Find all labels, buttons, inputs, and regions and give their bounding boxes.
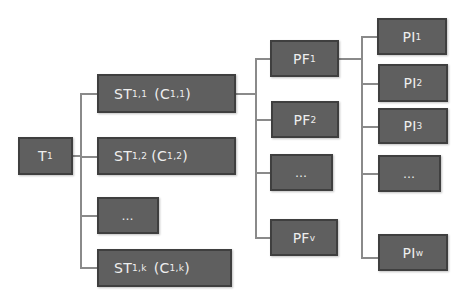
- ellipsis-label: …: [403, 167, 416, 181]
- connector-st11: [80, 93, 97, 95]
- node-label: PF: [293, 51, 310, 67]
- node-label: T: [38, 148, 47, 164]
- node-label: PI: [403, 118, 416, 134]
- node-label: PI: [403, 75, 416, 91]
- node-paren-label: C: [160, 260, 170, 276]
- hierarchy-diagram: T1 ST1,1 (C1,1) ST1,2 (C1,2) … ST1,k (C1…: [0, 0, 472, 297]
- node-st-1-2: ST1,2 (C1,2): [97, 137, 236, 175]
- connector-pf-ellipsis: [255, 172, 270, 174]
- node-pf-1: PF1: [270, 40, 339, 77]
- connector-pi3: [361, 126, 378, 128]
- connector-pf2: [255, 119, 271, 121]
- connector-st1k: [80, 267, 97, 269]
- node-label: ST: [114, 148, 132, 164]
- paren-close: ): [184, 260, 190, 276]
- node-pi-ellipsis: …: [378, 155, 441, 192]
- connector-pf1: [255, 58, 270, 60]
- ellipsis-label: …: [295, 166, 308, 180]
- paren-close: ): [185, 86, 191, 102]
- node-paren-label: C: [157, 148, 167, 164]
- node-st-ellipsis: …: [97, 197, 159, 234]
- ellipsis-label: …: [122, 209, 135, 223]
- node-st-1-k: ST1,k (C1,k): [97, 249, 232, 287]
- node-label: PI: [403, 245, 416, 261]
- paren-close: ): [182, 148, 188, 164]
- node-label: PF: [293, 230, 310, 246]
- node-label: PI: [402, 29, 415, 45]
- node-pf-ellipsis: …: [270, 154, 333, 191]
- node-label: PF: [293, 112, 310, 128]
- connector-st11-out: [236, 93, 256, 95]
- connector-pi-ellipsis: [361, 173, 378, 175]
- node-label: ST: [114, 86, 132, 102]
- node-pi-2: PI2: [378, 64, 448, 102]
- node-pf-v: PFv: [270, 219, 338, 256]
- node-pf-2: PF2: [271, 101, 339, 138]
- node-pi-w: PIw: [378, 234, 448, 271]
- connector-st12: [80, 156, 97, 158]
- connector-pi1: [361, 36, 377, 38]
- node-label: ST: [114, 260, 132, 276]
- node-t1: T1: [18, 137, 73, 175]
- connector-st-ellipsis: [80, 215, 97, 217]
- connector-pi-spine: [361, 36, 363, 258]
- node-pi-3: PI3: [378, 108, 448, 144]
- connector-piw: [361, 257, 378, 259]
- connector-st-spine: [80, 93, 82, 268]
- node-st-1-1: ST1,1 (C1,1): [97, 74, 236, 113]
- connector-pi2: [361, 83, 378, 85]
- connector-pf-spine: [255, 58, 257, 238]
- node-pi-1: PI1: [377, 18, 447, 55]
- connector-pf1-out: [339, 58, 362, 60]
- node-paren-label: C: [160, 86, 170, 102]
- connector-pfv: [255, 237, 270, 239]
